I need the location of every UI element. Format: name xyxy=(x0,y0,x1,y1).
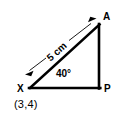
vertex-label-x: X xyxy=(17,84,24,94)
angle-label: 40° xyxy=(56,69,71,79)
dimension-arrowhead-start xyxy=(25,71,34,76)
coordinate-label: (3,4) xyxy=(14,99,38,110)
dimension-line-upper-segment xyxy=(69,24,91,41)
vertex-label-a: A xyxy=(103,12,110,22)
dimension-arrowhead-end xyxy=(88,17,97,22)
vertex-label-p: P xyxy=(104,84,111,94)
geometry-figure: A P X (3,4) 40° 5 cm xyxy=(0,0,120,136)
